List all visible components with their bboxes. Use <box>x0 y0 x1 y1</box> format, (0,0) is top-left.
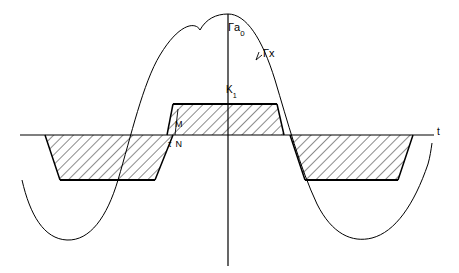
left-hatch-fill <box>40 130 180 186</box>
left-lower-hatched-region <box>40 130 180 186</box>
time-axis-label: t <box>437 127 440 137</box>
waveform-diagram: Γa0 Γx K1 M τN t <box>0 0 459 273</box>
curve-name-label: Γx <box>263 48 275 59</box>
threshold-label: K1 <box>226 85 237 97</box>
right-lower-hatched-region <box>285 130 420 186</box>
gamma-x-leader <box>256 52 262 60</box>
tau-n-label: τN <box>168 140 182 149</box>
point-m-label: M <box>175 120 183 129</box>
right-hatch-fill <box>285 130 420 186</box>
diagram-canvas <box>0 0 459 273</box>
peak-amplitude-label: Γa0 <box>228 22 245 36</box>
